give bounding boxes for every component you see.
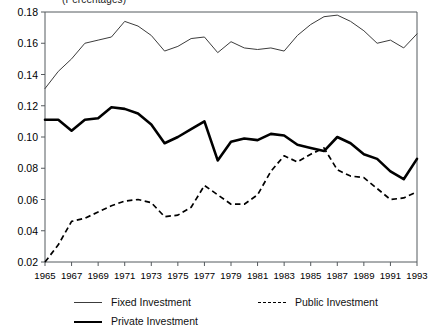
x-tick-label: 1965: [34, 270, 55, 281]
x-axis-tick-labels: 1965196719691971197319751977197919811983…: [34, 270, 427, 281]
legend-swatch-fixed-icon: [74, 297, 102, 307]
x-tick-label: 1979: [220, 270, 241, 281]
legend-swatch-private-icon: [74, 316, 102, 326]
legend-entry-fixed-investment: Fixed Investment: [74, 296, 258, 308]
legend-entry-public-investment: Public Investment: [258, 296, 378, 308]
y-tick-label: 0.08: [18, 162, 39, 174]
y-tick-label: 0.18: [18, 6, 39, 18]
chart-plot-area: 0.020.040.060.080.100.120.140.160.18 196…: [0, 0, 438, 290]
y-tick-label: 0.04: [18, 225, 39, 237]
series-line-public-investment: [45, 148, 417, 262]
legend-swatch-public-icon: [258, 297, 286, 307]
series-line-fixed-investment: [45, 15, 417, 88]
x-tick-label: 1993: [406, 270, 427, 281]
legend-row-2: Private Investment: [0, 311, 438, 330]
y-axis-tick-labels: 0.020.040.060.080.100.120.140.160.18: [18, 6, 39, 268]
x-tick-label: 1983: [273, 270, 294, 281]
x-tick-label: 1969: [87, 270, 108, 281]
legend-row-1: Fixed Investment Public Investment: [0, 292, 438, 311]
x-tick-label: 1987: [327, 270, 348, 281]
data-series-group: [45, 15, 417, 262]
y-tick-label: 0.10: [18, 131, 39, 143]
y-tick-label: 0.14: [18, 69, 39, 81]
x-tick-label: 1975: [167, 270, 188, 281]
axis-lines: [41, 12, 417, 266]
x-tick-label: 1973: [141, 270, 162, 281]
x-tick-label: 1977: [194, 270, 215, 281]
x-tick-label: 1985: [300, 270, 321, 281]
y-tick-label: 0.12: [18, 100, 39, 112]
legend-label-private: Private Investment: [111, 315, 198, 327]
x-tick-label: 1991: [380, 270, 401, 281]
x-tick-label: 1967: [61, 270, 82, 281]
legend-label-public: Public Investment: [295, 296, 378, 308]
investment-line-chart: (Percentages) 0.020.040.060.080.100.120.…: [0, 0, 438, 333]
y-tick-label: 0.06: [18, 194, 39, 206]
y-tick-label: 0.16: [18, 37, 39, 49]
x-tick-label: 1989: [353, 270, 374, 281]
chart-legend: Fixed Investment Public Investment Priva…: [0, 292, 438, 330]
series-line-private-investment: [45, 107, 417, 179]
legend-label-fixed: Fixed Investment: [111, 296, 191, 308]
x-tick-label: 1981: [247, 270, 268, 281]
y-tick-label: 0.02: [18, 256, 39, 268]
x-tick-label: 1971: [114, 270, 135, 281]
legend-entry-private-investment: Private Investment: [74, 315, 258, 327]
